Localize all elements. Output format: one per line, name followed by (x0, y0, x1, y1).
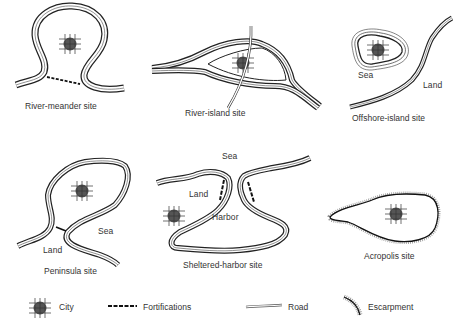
label-harbor: Harbor (212, 212, 239, 222)
legend-label-city: City (59, 302, 74, 312)
river-meander-panel (16, 6, 124, 89)
river-island-panel (152, 26, 320, 108)
sheltered-harbor-panel (157, 158, 310, 251)
label-sea-harbor: Sea (222, 151, 237, 161)
city-icon (29, 298, 51, 318)
caption-acropolis: Acropolis site (364, 251, 415, 261)
caption-river-meander: River-meander site (25, 101, 97, 111)
offshore-island-panel (350, 18, 452, 107)
escarpment-icon (344, 297, 360, 315)
label-sea-peninsula: Sea (98, 226, 113, 236)
site-types-diagram (0, 0, 464, 329)
legend-label-road: Road (288, 302, 308, 312)
fortification-line (47, 77, 80, 84)
label-land-peninsula: Land (43, 245, 62, 255)
caption-peninsula: Peninsula site (44, 266, 97, 276)
fortification-line (248, 182, 254, 202)
city-icon (59, 34, 81, 54)
legend-label-escarpment: Escarpment (368, 302, 413, 312)
fortification-line (56, 227, 66, 231)
caption-sheltered-harbor: Sheltered-harbor site (183, 260, 262, 270)
caption-river-island: River-island site (185, 108, 245, 118)
label-land-harbor: Land (189, 189, 208, 199)
label-sea-offshore: Sea (358, 70, 373, 80)
caption-offshore-island: Offshore-island site (352, 113, 425, 123)
label-land-offshore: Land (423, 80, 442, 90)
fortification-line (220, 180, 224, 200)
acropolis-panel (330, 194, 438, 242)
city-icon (71, 181, 93, 201)
peninsula-panel (18, 161, 128, 265)
road-icon (246, 305, 282, 307)
legend-label-fortifications: Fortifications (143, 302, 191, 312)
legend (29, 297, 360, 318)
city-icon (163, 206, 185, 226)
